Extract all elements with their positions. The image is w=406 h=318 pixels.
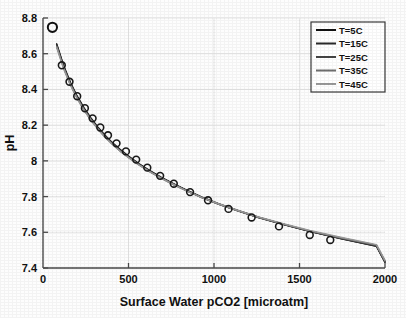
x-axis-title: Surface Water pCO2 [microatm]: [120, 295, 308, 309]
legend-label: T=15C: [339, 38, 368, 49]
x-tick-label: 1000: [202, 273, 226, 285]
y-axis-title: pH: [3, 135, 17, 152]
ph-vs-pco2-chart: 7.47.67.888.28.48.68.80500100015002000Su…: [0, 0, 406, 318]
legend-label: T=25C: [339, 52, 368, 63]
y-tick-label: 8.6: [22, 48, 37, 60]
y-tick-label: 8.8: [22, 12, 37, 24]
chart-canvas: 7.47.67.888.28.48.68.80500100015002000Su…: [0, 0, 406, 318]
y-tick-label: 7.4: [22, 262, 38, 274]
legend-label: T=5C: [339, 25, 363, 36]
outlier-open-circle-marker: [48, 23, 57, 32]
x-tick-label: 1500: [287, 273, 311, 285]
y-tick-label: 7.8: [22, 191, 37, 203]
y-tick-label: 8: [31, 155, 37, 167]
legend: T=5CT=15CT=25CT=35CT=45C: [311, 22, 385, 92]
legend-label: T=35C: [339, 65, 368, 76]
data-marker: [327, 237, 334, 244]
legend-label: T=45C: [339, 79, 368, 90]
y-tick-label: 7.6: [22, 226, 37, 238]
y-tick-label: 8.4: [22, 83, 38, 95]
x-tick-label: 500: [119, 273, 137, 285]
y-tick-label: 8.2: [22, 119, 37, 131]
x-tick-label: 2000: [373, 273, 397, 285]
x-tick-label: 0: [40, 273, 46, 285]
